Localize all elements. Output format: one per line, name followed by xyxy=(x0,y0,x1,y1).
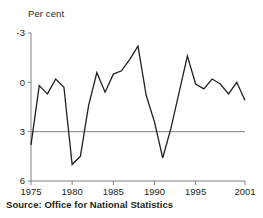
figure-container: Per cent 630-3197519801985199019952001 S… xyxy=(0,0,263,218)
x-axis-tick-label: 1995 xyxy=(185,186,206,195)
line-chart: 630-3197519801985199019952001 xyxy=(0,0,263,195)
source-note: Source: Office for National Statistics xyxy=(6,199,173,210)
y-axis-tick-label: 6 xyxy=(20,175,25,186)
x-axis-tick-label: 2001 xyxy=(234,186,255,195)
plot-area: 630-3197519801985199019952001 xyxy=(0,0,263,195)
x-axis-tick-label: 1980 xyxy=(62,186,83,195)
data-series-line xyxy=(31,46,245,164)
x-axis-tick-label: 1990 xyxy=(144,186,165,195)
x-axis-tick-label: 1975 xyxy=(20,186,41,195)
x-axis-tick-label: 1985 xyxy=(103,186,124,195)
y-axis-tick-label: -3 xyxy=(17,27,25,38)
y-axis-tick-label: 0 xyxy=(20,77,25,88)
y-axis-tick-label: 3 xyxy=(20,126,25,137)
